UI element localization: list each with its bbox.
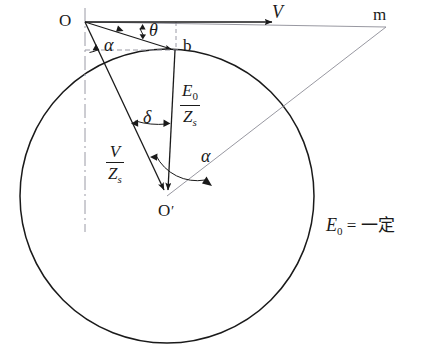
- label-angle-alpha-bottom: α: [201, 147, 210, 165]
- label-center-O-prime-letter: O: [158, 201, 170, 220]
- fraction-V-bar: [106, 162, 124, 163]
- angle-arc-alpha-at-O-tick: [93, 44, 100, 50]
- label-angle-alpha-top: α: [104, 36, 113, 54]
- fraction-E0-bar: [180, 105, 200, 106]
- fraction-E0-numerator-letter: E: [182, 81, 192, 100]
- angle-tick-alpha-at-O-2: [116, 26, 124, 32]
- label-point-b: b: [183, 37, 192, 54]
- angle-tick-theta-down: [140, 34, 146, 39]
- angle-arc-alpha-at-Oprime: [156, 156, 205, 181]
- label-origin-O: O: [59, 12, 71, 29]
- label-vector-V: V: [272, 3, 283, 21]
- angle-tick-alpha-right: [202, 177, 212, 187]
- caption-equals-sign: =: [343, 216, 361, 235]
- vector-diagram-svg: [0, 0, 423, 350]
- label-angle-delta: δ: [143, 108, 151, 126]
- caption-E0-letter: E: [326, 215, 337, 235]
- fraction-V-numerator: V: [106, 143, 124, 161]
- caption-constant-text: 一定: [361, 215, 395, 235]
- fraction-E0-denominator-letter: Z: [183, 107, 192, 126]
- fraction-V-denominator-subscript: s: [117, 174, 121, 186]
- fraction-E0-numerator-subscript: 0: [192, 90, 198, 102]
- fraction-V-over-Zs: V Zs: [106, 143, 124, 186]
- label-point-m: m: [373, 6, 386, 23]
- label-center-O-prime: O′: [158, 202, 173, 219]
- fraction-E0-denominator: Zs: [180, 107, 200, 129]
- fraction-E0-numerator: E0: [180, 82, 200, 104]
- fraction-E0-denominator-subscript: s: [193, 116, 197, 128]
- fraction-E0-over-Zs: E0 Zs: [180, 82, 200, 128]
- angle-tick-theta-up: [139, 24, 145, 30]
- line-O-to-b: [85, 22, 171, 49]
- label-center-O-prime-tick: ′: [170, 204, 173, 219]
- angle-tick-alpha-left: [150, 154, 158, 161]
- angle-tick-delta-right: [163, 120, 170, 127]
- fraction-V-denominator: Zs: [106, 164, 124, 186]
- caption-constant-E0: E0 = 一定: [326, 216, 395, 237]
- figure-canvas: O b m O′ V α θ δ α E0 Zs V Zs E0 = 一定: [0, 0, 423, 350]
- fraction-V-numerator-letter: V: [110, 142, 120, 161]
- vector-E0-over-Zs: [168, 50, 175, 190]
- label-angle-theta: θ: [149, 21, 158, 39]
